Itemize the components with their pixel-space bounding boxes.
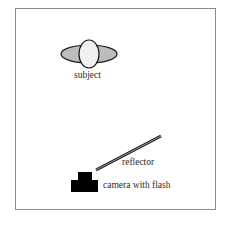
subject-label: subject bbox=[74, 71, 101, 81]
reflector-label: reflector bbox=[122, 158, 154, 168]
camera-icon bbox=[71, 172, 98, 192]
subject-head-icon bbox=[79, 40, 99, 68]
camera-label: camera with flash bbox=[103, 181, 171, 191]
